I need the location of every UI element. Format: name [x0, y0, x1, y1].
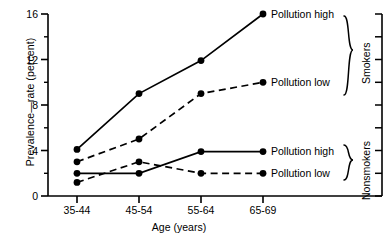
group-label-nonsmokers: Nonsmokers — [361, 141, 372, 200]
x-tick-label-65-69: 65-69 — [233, 205, 293, 215]
data-point — [260, 148, 267, 155]
data-point — [198, 90, 205, 97]
data-point — [136, 158, 143, 165]
data-point — [198, 148, 205, 155]
data-point — [260, 79, 267, 86]
data-point — [136, 90, 143, 97]
data-point — [136, 170, 143, 177]
data-point — [260, 11, 267, 18]
series-label-smokers-pollution-high: Pollution high — [271, 9, 334, 20]
series-smokers-pollution-high — [74, 11, 267, 153]
data-point — [198, 57, 205, 64]
data-point — [136, 136, 143, 143]
x-tick-label-45-54: 45-54 — [109, 205, 169, 215]
data-point — [260, 170, 267, 177]
brace-nonsmokers — [344, 145, 353, 180]
data-point — [198, 170, 205, 177]
data-point — [74, 158, 81, 165]
x-axis-title: Age (years) — [48, 221, 310, 233]
series-label-nonsmokers-pollution-low: Pollution low — [271, 168, 330, 179]
chart-figure: 16 12 8 4 0 35-44 45-54 55-64 65-69 Prev… — [0, 0, 391, 242]
group-label-smokers: Smokers — [361, 43, 372, 84]
brace-smokers — [344, 16, 353, 95]
data-point — [74, 170, 81, 177]
y-tick-label-0: 0 — [16, 191, 38, 201]
data-point — [74, 179, 81, 186]
series-label-nonsmokers-pollution-high: Pollution high — [271, 146, 334, 157]
y-axis-title: Prevalence—rate (percent) — [24, 17, 36, 187]
x-tick-label-55-64: 55-64 — [171, 205, 231, 215]
series-label-smokers-pollution-low: Pollution low — [271, 77, 330, 88]
data-point — [74, 146, 81, 153]
x-tick-label-35-44: 35-44 — [47, 205, 107, 215]
